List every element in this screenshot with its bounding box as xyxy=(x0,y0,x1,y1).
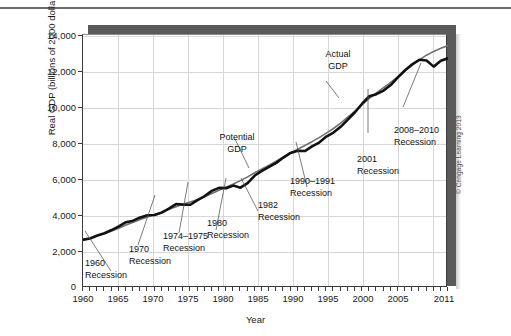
x-tick-label-2005: 2005 xyxy=(377,293,419,304)
x-tick-mark-1979 xyxy=(218,287,219,291)
x-tick-mark-2001 xyxy=(375,287,376,291)
x-tick-mark-1994 xyxy=(325,287,326,291)
x-tick-mark-1982 xyxy=(239,287,240,291)
x-tick-mark-1969 xyxy=(146,287,147,291)
x-tick-mark-2004 xyxy=(397,287,398,291)
x-tick-mark-1971 xyxy=(161,287,162,291)
x-tick-mark-2010 xyxy=(440,287,441,291)
x-tick-mark-2006 xyxy=(411,287,412,291)
x-tick-mark-1984 xyxy=(254,287,255,291)
x-tick-mark-1977 xyxy=(204,287,205,291)
x-tick-mark-1975 xyxy=(189,287,190,291)
x-tick-mark-1996 xyxy=(340,287,341,291)
y-tick-label-8000: 8,000 xyxy=(30,138,76,149)
x-tick-mark-2000 xyxy=(368,287,369,291)
y-tick-label-6000: 6,000 xyxy=(30,174,76,185)
x-tick-mark-1965 xyxy=(118,287,119,291)
x-tick-mark-1989 xyxy=(290,287,291,291)
x-tick-mark-2009 xyxy=(433,287,434,291)
x-tick-mark-1978 xyxy=(211,287,212,291)
x-tick-mark-2002 xyxy=(383,287,384,291)
leader-line-1974-1975 xyxy=(179,182,188,233)
leader-line-actual xyxy=(326,81,339,98)
y-tick-label-10000: 10,000 xyxy=(30,102,76,113)
x-tick-mark-1970 xyxy=(154,287,155,291)
x-tick-mark-2007 xyxy=(418,287,419,291)
x-tick-mark-2008 xyxy=(426,287,427,291)
x-tick-mark-1991 xyxy=(304,287,305,291)
x-tick-mark-1997 xyxy=(347,287,348,291)
x-tick-mark-1964 xyxy=(111,287,112,291)
x-tick-mark-2011 xyxy=(447,287,448,291)
x-tick-mark-1999 xyxy=(361,287,362,291)
x-tick-mark-2005 xyxy=(404,287,405,291)
x-tick-label-2011: 2011 xyxy=(423,293,465,304)
y-tick-label-2000: 2,000 xyxy=(30,246,76,257)
y-tick-label-12000: 12,000 xyxy=(30,66,76,77)
annotation-recession-1990-1991: 1990–1991 Recession xyxy=(290,176,368,199)
x-tick-mark-1985 xyxy=(261,287,262,291)
x-tick-mark-1974 xyxy=(182,287,183,291)
annotation-actual-gdp: Actual GDP xyxy=(310,49,366,72)
x-tick-mark-1983 xyxy=(247,287,248,291)
x-tick-mark-1992 xyxy=(311,287,312,291)
x-tick-mark-1968 xyxy=(139,287,140,291)
annotation-potential-gdp: Potential GDP xyxy=(206,132,268,155)
x-tick-mark-1987 xyxy=(275,287,276,291)
figure-gdp-chart: Real GDP (billions of 2000 dollars) 14,0… xyxy=(0,9,511,336)
x-tick-mark-1972 xyxy=(168,287,169,291)
leader-line-1970 xyxy=(138,195,155,245)
x-tick-mark-1990 xyxy=(297,287,298,291)
x-tick-mark-1962 xyxy=(96,287,97,291)
x-tick-mark-1981 xyxy=(232,287,233,291)
x-tick-mark-1986 xyxy=(268,287,269,291)
y-tick-label-4000: 4,000 xyxy=(30,210,76,221)
x-tick-mark-1973 xyxy=(175,287,176,291)
copyright-credit: © Cengage Learning 2013 xyxy=(455,94,462,194)
x-tick-mark-1963 xyxy=(103,287,104,291)
x-tick-mark-1995 xyxy=(332,287,333,291)
x-tick-mark-1976 xyxy=(197,287,198,291)
annotation-recession-1982: 1982 Recession xyxy=(258,200,328,223)
x-tick-mark-2003 xyxy=(390,287,391,291)
leader-line-1982 xyxy=(241,178,258,211)
chart-frame-top-band xyxy=(88,25,456,34)
x-tick-mark-1980 xyxy=(225,287,226,291)
x-tick-mark-1960 xyxy=(82,287,83,291)
x-tick-mark-1966 xyxy=(125,287,126,291)
x-tick-mark-1961 xyxy=(89,287,90,291)
x-tick-mark-1988 xyxy=(282,287,283,291)
x-axis-title: Year xyxy=(0,314,511,325)
y-tick-label-14000: 14,000 xyxy=(30,30,76,41)
y-tick-label-0: 0 xyxy=(30,281,76,292)
annotation-recession-2001: 2001 Recession xyxy=(357,154,427,177)
leader-line-2008-2010 xyxy=(403,63,421,107)
x-tick-mark-1967 xyxy=(132,287,133,291)
x-tick-mark-1993 xyxy=(318,287,319,291)
x-tick-mark-1998 xyxy=(354,287,355,291)
